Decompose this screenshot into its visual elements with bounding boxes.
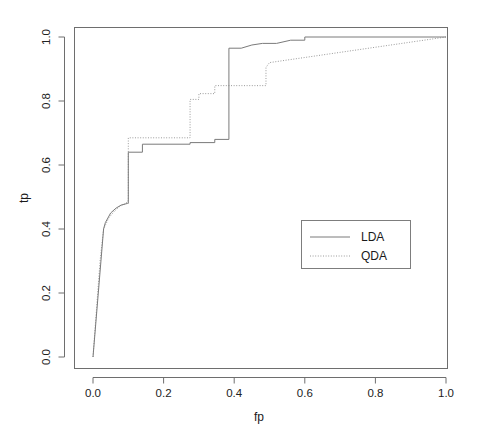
y-tick-label: 0.2 xyxy=(40,285,52,301)
legend-box xyxy=(302,221,411,269)
legend-label-lda: LDA xyxy=(361,230,384,244)
plot-frame xyxy=(75,28,448,369)
x-tick-label: 1.0 xyxy=(438,387,454,399)
x-tick-label: 0.8 xyxy=(367,387,383,399)
legend-label-qda: QDA xyxy=(361,249,387,263)
roc-chart: 0.0 0.2 0.4 0.6 0.8 1.0 0.0 0.2 0.4 0.6 … xyxy=(0,0,484,439)
y-tick-label: 1.0 xyxy=(40,29,52,45)
chart-svg: 0.0 0.2 0.4 0.6 0.8 1.0 0.0 0.2 0.4 0.6 … xyxy=(0,0,484,439)
y-axis-title: tp xyxy=(17,193,31,203)
y-tick-marks xyxy=(59,37,65,357)
y-tick-label: 0.6 xyxy=(40,157,52,173)
legend[interactable]: LDA QDA xyxy=(302,221,411,269)
x-tick-label: 0.2 xyxy=(156,387,172,399)
series-line-lda xyxy=(93,37,446,357)
y-tick-label: 0.8 xyxy=(40,93,52,109)
x-tick-label: 0.6 xyxy=(297,387,313,399)
x-tick-label: 0.0 xyxy=(85,387,101,399)
x-tick-label: 0.4 xyxy=(226,387,243,399)
x-axis-title: fp xyxy=(254,410,264,424)
x-tick-labels: 0.0 0.2 0.4 0.6 0.8 1.0 xyxy=(85,387,454,399)
y-tick-labels: 0.0 0.2 0.4 0.6 0.8 1.0 xyxy=(40,29,52,365)
series-line-qda xyxy=(93,37,446,357)
y-tick-label: 0.4 xyxy=(40,220,52,237)
y-tick-label: 0.0 xyxy=(40,349,52,365)
x-tick-marks xyxy=(93,378,446,384)
